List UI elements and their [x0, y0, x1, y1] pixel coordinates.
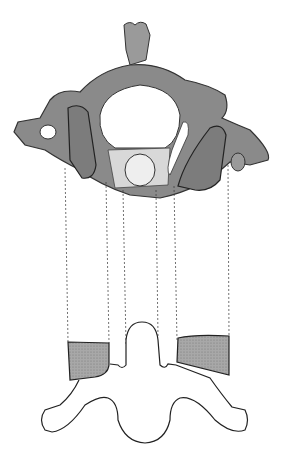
- left-facet-block: [68, 342, 109, 380]
- diagram: [0, 0, 282, 450]
- vertebra-illustration: [0, 0, 282, 450]
- lower-outline: [42, 322, 248, 443]
- upper-vertebra: [14, 22, 269, 198]
